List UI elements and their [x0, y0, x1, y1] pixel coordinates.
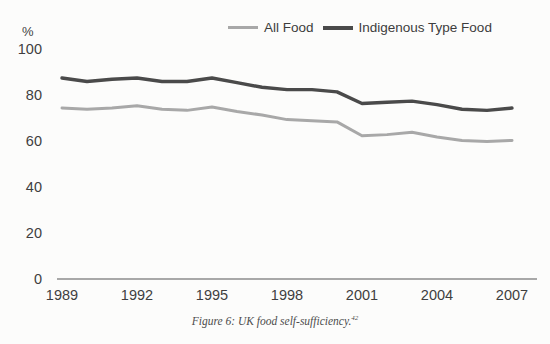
data-line-all-food	[62, 106, 512, 142]
chart-plot-area	[0, 0, 550, 344]
figure-container: % 100 80 60 40 20 0 1989 1992 1995 1998 …	[0, 0, 550, 344]
figure-caption-footnote: 42	[351, 314, 358, 322]
figure-caption-text: Figure 6: UK food self-sufficiency.	[192, 315, 352, 327]
figure-caption: Figure 6: UK food self-sufficiency.42	[0, 314, 550, 327]
